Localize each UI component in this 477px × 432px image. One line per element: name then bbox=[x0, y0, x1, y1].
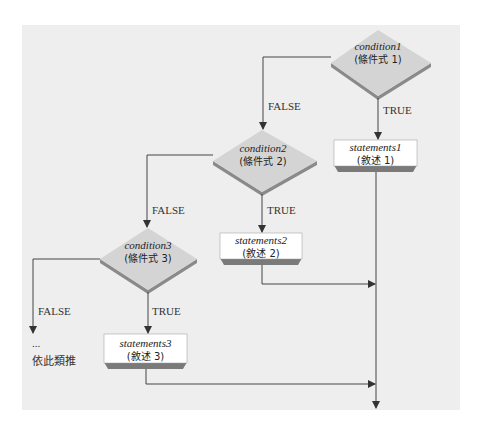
statements2-sublabel: (敘述 2) bbox=[220, 247, 302, 260]
continuation-ellipsis: ... bbox=[32, 336, 40, 350]
statements2-text: statements2 (敘述 2) bbox=[220, 234, 302, 260]
condition3-label: condition3 bbox=[103, 239, 193, 252]
edge-label-true-1: TRUE bbox=[383, 104, 412, 116]
condition3-sublabel: (條件式 3) bbox=[103, 252, 193, 265]
condition1-text: condition1 (條件式 1) bbox=[333, 40, 423, 66]
condition2-label: condition2 bbox=[217, 142, 309, 155]
statements3-label: statements3 bbox=[104, 337, 187, 350]
edge-label-true-3: TRUE bbox=[152, 305, 181, 317]
condition3-text: condition3 (條件式 3) bbox=[103, 239, 193, 265]
flowchart-canvas: condition1 (條件式 1) condition2 (條件式 2) co… bbox=[0, 0, 477, 432]
condition2-text: condition2 (條件式 2) bbox=[217, 142, 309, 168]
condition1-label: condition1 bbox=[333, 40, 423, 53]
statements3-text: statements3 (敘述 3) bbox=[104, 337, 187, 363]
continuation-text: 依此類推 bbox=[32, 352, 76, 368]
statements3-sublabel: (敘述 3) bbox=[104, 350, 187, 363]
condition1-sublabel: (條件式 1) bbox=[333, 53, 423, 66]
statements1-text: statements1 (敘述 1) bbox=[334, 141, 417, 167]
edge-label-false-1: FALSE bbox=[268, 100, 301, 112]
edge-label-false-2: FALSE bbox=[152, 204, 185, 216]
edge-label-false-3: FALSE bbox=[38, 305, 71, 317]
statements1-label: statements1 bbox=[334, 141, 417, 154]
statements1-sublabel: (敘述 1) bbox=[334, 154, 417, 167]
statements2-label: statements2 bbox=[220, 234, 302, 247]
condition2-sublabel: (條件式 2) bbox=[217, 155, 309, 168]
connector-lines bbox=[33, 57, 378, 408]
edge-label-true-2: TRUE bbox=[267, 204, 296, 216]
